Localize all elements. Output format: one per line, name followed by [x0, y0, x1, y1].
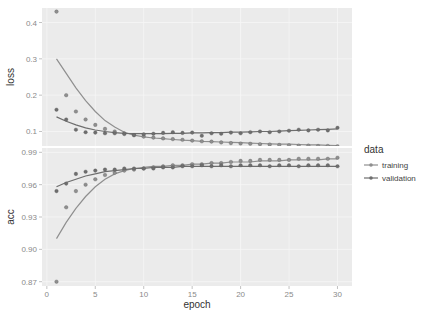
y-tick-label: 0.99 [21, 148, 37, 157]
x-tick-label: 20 [236, 290, 245, 299]
x-axis-title: epoch [183, 299, 210, 310]
legend: data training validation [364, 144, 416, 183]
y-tick-label: 0.2 [26, 91, 38, 100]
legend-item-training: training [364, 161, 408, 170]
y-tick-label: 0.3 [26, 55, 38, 64]
x-tick-label: 30 [333, 290, 342, 299]
legend-label-training: training [382, 161, 408, 170]
y-axis-title-acc: acc [5, 209, 16, 225]
faceted-training-chart: 0.10.20.30.4loss0.870.900.930.960.99acc … [0, 0, 422, 321]
x-tick-label: 0 [45, 290, 50, 299]
y-tick-label: 0.1 [26, 127, 38, 136]
y-tick-label: 0.90 [21, 245, 37, 254]
y-tick-label: 0.87 [21, 278, 37, 287]
x-tick-label: 25 [285, 290, 294, 299]
x-tick-label: 10 [139, 290, 148, 299]
legend-item-validation: validation [364, 174, 416, 183]
panel-loss: 0.10.20.30.4loss [5, 8, 352, 148]
x-tick-label: 5 [93, 290, 98, 299]
panel-acc: 0.870.900.930.960.99acc [5, 148, 352, 287]
y-tick-label: 0.93 [21, 213, 37, 222]
legend-title: data [364, 144, 384, 155]
y-axis-title-loss: loss [5, 68, 16, 86]
x-tick-label: 15 [188, 290, 197, 299]
y-tick-label: 0.4 [26, 19, 38, 28]
y-tick-label: 0.96 [21, 181, 37, 190]
legend-label-validation: validation [382, 174, 416, 183]
